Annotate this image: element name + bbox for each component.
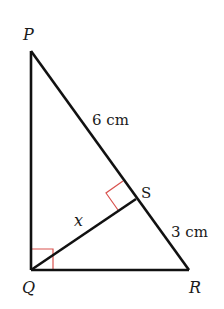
side-pr [31,51,189,270]
vertex-label-p: P [22,25,34,44]
right-angle-mark-s [106,181,123,210]
triangle-diagram: P Q R S 6 cm 3 cm x [0,0,224,309]
vertex-label-s: S [141,184,151,202]
vertex-label-q: Q [22,278,35,297]
length-label-sr: 3 cm [171,223,208,241]
length-label-qs: x [74,211,83,230]
altitude-qs [31,199,136,270]
length-label-ps: 6 cm [92,111,129,129]
vertex-label-r: R [188,278,201,297]
